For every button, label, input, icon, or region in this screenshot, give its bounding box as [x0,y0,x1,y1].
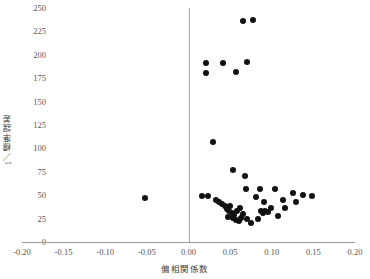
scatter-point [203,60,209,66]
x-axis-label: 偏相関係数 [0,262,370,274]
x-tick-label: -0.05 [138,247,156,257]
funnel-plot-figure: 1／標準誤差 0255075100125150175200225250 -0.2… [0,0,370,279]
scatter-point [272,186,278,192]
scatter-point [265,209,271,215]
scatter-point [233,69,239,75]
scatter-point [203,70,209,76]
scatter-point [230,167,236,173]
scatter-point [242,173,248,179]
scatter-point [205,193,211,199]
scatter-point [220,60,226,66]
scatter-point [282,205,288,211]
scatter-point [227,203,233,209]
x-tick-label: -0.15 [55,247,73,257]
scatter-point [142,195,148,201]
scatter-point [243,186,249,192]
x-tick-label: 0.05 [223,247,238,257]
scatter-point [240,18,246,24]
scatter-point [250,17,256,23]
scatter-point [255,216,261,222]
scatter-point [290,190,296,196]
scatter-point [309,193,315,199]
plot-area [0,0,370,279]
x-tick-label: 0.10 [264,247,279,257]
scatter-point [260,210,266,216]
scatter-point [199,193,205,199]
x-tick-label: 0.20 [348,247,363,257]
x-tick-label: 0.15 [306,247,321,257]
scatter-point [275,213,281,219]
x-tick-label: 0.00 [181,247,196,257]
scatter-point [293,199,299,205]
scatter-point [257,186,263,192]
scatter-point [280,197,286,203]
scatter-point [248,220,254,226]
x-axis-line [22,242,355,243]
scatter-point [253,194,259,200]
scatter-point [300,192,306,198]
x-tick-label: -0.20 [13,247,31,257]
scatter-point [261,199,267,205]
scatter-point [244,59,250,65]
zero-reference-line [189,8,190,242]
x-tick-label: -0.10 [96,247,114,257]
scatter-point [210,139,216,145]
